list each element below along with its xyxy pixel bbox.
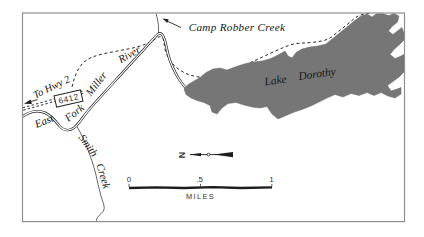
north-arrow-pivot [207,153,210,156]
scale-label-1: 1 [269,175,274,184]
scale-label-half: .5 [196,175,203,184]
map-canvas: 6412 Camp Robber Creek To Hwy 2 Miller R… [0,0,424,237]
north-arrow-label: N [177,152,187,158]
label-camp-robber-creek: Camp Robber Creek [189,21,286,33]
map-figure: 6412 Camp Robber Creek To Hwy 2 Miller R… [0,0,424,237]
scale-label-0: 0 [127,175,132,184]
scale-bar-line [129,187,272,188]
scale-unit-label: MILES [186,192,215,201]
